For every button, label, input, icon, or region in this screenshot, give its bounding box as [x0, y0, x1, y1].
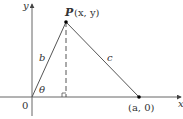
side-c	[66, 22, 139, 97]
point-P-coords: (x, y)	[74, 7, 100, 18]
right-angle-marker	[62, 93, 66, 97]
point-P-name: P	[64, 6, 74, 19]
point-a0	[137, 95, 141, 99]
y-axis-label: y	[22, 0, 29, 11]
side-b	[32, 22, 66, 97]
side-b-label: b	[39, 52, 45, 63]
triangle-diagram: y x 0 P (x, y) (a, 0) b c θ	[0, 0, 183, 119]
x-axis-label: x	[178, 98, 183, 109]
point-a0-label: (a, 0)	[128, 102, 155, 113]
angle-theta-label: θ	[39, 84, 45, 95]
side-c-label: c	[107, 52, 113, 63]
origin-label: 0	[22, 100, 28, 111]
point-P	[64, 20, 68, 24]
